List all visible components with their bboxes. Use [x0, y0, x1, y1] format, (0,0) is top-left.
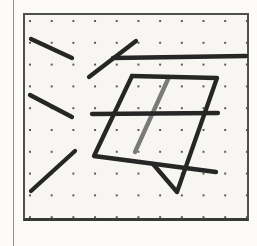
drawing-canvas[interactable] — [23, 13, 249, 221]
page — [0, 0, 257, 246]
page-edge-line — [13, 0, 15, 246]
